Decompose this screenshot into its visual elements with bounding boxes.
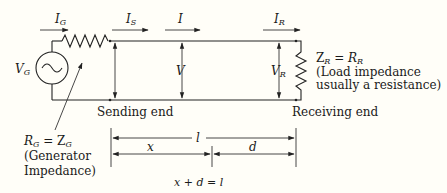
generator-resistor-icon (62, 35, 108, 47)
generator-voltage-label: VG (15, 62, 31, 77)
line-voltage-label: V (176, 64, 186, 78)
sending-end-label: Sending end (97, 105, 174, 119)
length-label: l (196, 131, 200, 145)
d-distance-label: d (249, 140, 257, 154)
load-impedance-note-line1: (Load impedance (316, 65, 421, 79)
receiving-voltage-label: VR (271, 64, 286, 79)
generator-impedance-note-line1: (Generator (24, 149, 91, 163)
generator-impedance-note-line2: Impedance) (24, 164, 96, 178)
generator-current-label: IG (54, 12, 67, 27)
load-resistor-icon (296, 41, 306, 100)
receiving-end-label: Receiving end (292, 105, 378, 119)
load-impedance-equation: ZR = RR (316, 51, 363, 66)
line-current-label: I (177, 12, 183, 26)
generator-source-icon (36, 41, 68, 100)
transmission-line-diagram: IG IS I IR VG V VR ZR = RR (Load impedan… (0, 0, 447, 193)
load-impedance-note-line2: usually a resistance) (316, 78, 441, 92)
distance-relation: x + d = l (174, 176, 224, 189)
generator-impedance-equation: RG = ZG (23, 134, 72, 149)
sending-current-label: IS (125, 12, 137, 27)
generator-impedance-pointer (55, 63, 82, 130)
receiving-current-label: IR (273, 12, 285, 27)
x-distance-label: x (147, 140, 154, 154)
